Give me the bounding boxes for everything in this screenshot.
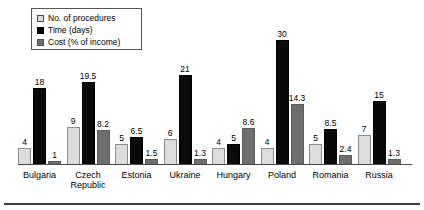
bar-value-label: 9 bbox=[71, 117, 76, 126]
bar-value-label: 30 bbox=[277, 30, 286, 39]
bar-value-label: 1 bbox=[52, 151, 57, 160]
bar-value-label: 1.3 bbox=[194, 149, 206, 158]
bar-cost[interactable]: 2.4 bbox=[339, 30, 352, 165]
bar-group-bars: 4181 bbox=[18, 30, 61, 165]
bar-group-bars: 919.58.2 bbox=[67, 30, 110, 165]
bar-procedures[interactable]: 9 bbox=[67, 30, 80, 165]
bar-value-label: 14.3 bbox=[289, 94, 306, 103]
bar-time[interactable]: 6.5 bbox=[130, 30, 143, 165]
bar-rect-time[interactable] bbox=[82, 82, 95, 165]
bar-group-bars: 58.52.4 bbox=[309, 30, 352, 165]
bar-group-bars: 56.51.5 bbox=[115, 30, 158, 165]
bar-rect-procedures[interactable] bbox=[358, 135, 371, 165]
bar-value-label: 5 bbox=[231, 134, 236, 143]
bar-rect-cost[interactable] bbox=[97, 130, 110, 165]
bar-rect-cost[interactable] bbox=[242, 128, 255, 165]
bar-time[interactable]: 19.5 bbox=[82, 30, 95, 165]
bar-group-bars: 43014.3 bbox=[261, 30, 304, 165]
bar-value-label: 1.3 bbox=[388, 149, 400, 158]
bar-rect-procedures[interactable] bbox=[115, 144, 128, 165]
bar-rect-time[interactable] bbox=[179, 75, 192, 165]
bar-rect-procedures[interactable] bbox=[164, 139, 177, 165]
bar-rect-time[interactable] bbox=[227, 144, 240, 165]
bar-value-label: 5 bbox=[313, 134, 318, 143]
bar-time[interactable]: 8.5 bbox=[324, 30, 337, 165]
bar-value-label: 1.5 bbox=[146, 149, 158, 158]
bar-procedures[interactable]: 4 bbox=[212, 30, 225, 165]
chart-plot-area: 4181919.58.256.51.56211.3458.643014.358.… bbox=[18, 30, 412, 165]
bar-value-label: 2.4 bbox=[340, 145, 352, 154]
bar-rect-procedures[interactable] bbox=[212, 148, 225, 165]
bottom-divider bbox=[4, 203, 420, 205]
bar-value-label: 19.5 bbox=[80, 72, 97, 81]
bar-rect-time[interactable] bbox=[324, 129, 337, 165]
bar-cost[interactable]: 8.6 bbox=[242, 30, 255, 165]
bar-time[interactable]: 5 bbox=[227, 30, 240, 165]
bar-value-label: 15 bbox=[374, 91, 383, 100]
bar-cost[interactable]: 1 bbox=[48, 30, 61, 165]
bar-rect-procedures[interactable] bbox=[261, 148, 274, 165]
bar-rect-procedures[interactable] bbox=[67, 127, 80, 165]
bar-rect-time[interactable] bbox=[130, 137, 143, 165]
bar-procedures[interactable]: 5 bbox=[309, 30, 322, 165]
bar-value-label: 6 bbox=[168, 129, 173, 138]
bar-value-label: 8.5 bbox=[325, 119, 337, 128]
bar-value-label: 8.6 bbox=[243, 118, 255, 127]
bar-procedures[interactable]: 5 bbox=[115, 30, 128, 165]
bar-rect-procedures[interactable] bbox=[309, 144, 322, 165]
bar-time[interactable]: 18 bbox=[33, 30, 46, 165]
bar-group-bars: 6211.3 bbox=[164, 30, 207, 165]
bar-time[interactable]: 30 bbox=[276, 30, 289, 165]
bar-value-label: 7 bbox=[362, 125, 367, 134]
bar-value-label: 18 bbox=[35, 78, 44, 87]
bar-procedures[interactable]: 4 bbox=[261, 30, 274, 165]
bar-group-bars: 458.6 bbox=[212, 30, 255, 165]
x-axis-baseline bbox=[18, 164, 412, 165]
bar-rect-time[interactable] bbox=[33, 88, 46, 165]
bar-procedures[interactable]: 6 bbox=[164, 30, 177, 165]
bar-rect-procedures[interactable] bbox=[18, 148, 31, 165]
bar-time[interactable]: 15 bbox=[373, 30, 386, 165]
category-label: Russia bbox=[339, 170, 419, 180]
legend-swatch-procedures-icon bbox=[37, 15, 44, 22]
bar-cost[interactable]: 14.3 bbox=[291, 30, 304, 165]
bar-time[interactable]: 21 bbox=[179, 30, 192, 165]
bar-value-label: 4 bbox=[22, 138, 27, 147]
bar-cost[interactable]: 1.5 bbox=[145, 30, 158, 165]
bar-cost[interactable]: 1.3 bbox=[194, 30, 207, 165]
bar-procedures[interactable]: 4 bbox=[18, 30, 31, 165]
bar-rect-time[interactable] bbox=[276, 40, 289, 165]
bar-value-label: 21 bbox=[180, 65, 189, 74]
bar-procedures[interactable]: 7 bbox=[358, 30, 371, 165]
legend-label-procedures: No. of procedures bbox=[48, 14, 116, 23]
bar-value-label: 4 bbox=[265, 138, 270, 147]
bar-cost[interactable]: 8.2 bbox=[97, 30, 110, 165]
legend-item-procedures: No. of procedures bbox=[37, 13, 136, 24]
bar-value-label: 4 bbox=[216, 138, 221, 147]
bar-group-bars: 7151.3 bbox=[358, 30, 401, 165]
bar-rect-time[interactable] bbox=[373, 101, 386, 165]
bar-value-label: 6.5 bbox=[131, 127, 143, 136]
bar-value-label: 5 bbox=[119, 134, 124, 143]
bar-value-label: 8.2 bbox=[97, 120, 109, 129]
bar-cost[interactable]: 1.3 bbox=[388, 30, 401, 165]
bar-rect-cost[interactable] bbox=[291, 104, 304, 165]
